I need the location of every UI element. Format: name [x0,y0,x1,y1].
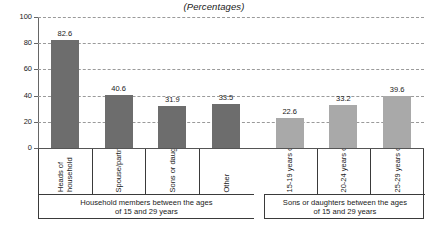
bar-value-label: 33.2 [321,95,365,103]
category-cell: Heads ofhousehold [39,149,93,194]
bar [158,106,186,148]
category-label: 25-29 years of age [394,149,403,192]
y-tick-label-60: 60 [0,65,32,73]
category-label: Sons or daughters [169,149,178,192]
bar-value-label: 82.6 [43,30,87,38]
bar [329,105,357,148]
bar [276,118,304,148]
category-label: Heads ofhousehold [57,150,74,192]
group-separator-gap [254,149,264,219]
category-cell: 25-29 years of age [371,149,425,194]
category-label: Spouse/partner [115,149,124,192]
bar-value-label: 22.6 [268,108,312,116]
y-tick-label-0: 0 [0,144,32,152]
bar-value-label: 33.5 [204,94,248,102]
bar [105,95,133,148]
bar [212,104,240,148]
gridline-60 [38,69,424,70]
y-tick-label-40: 40 [0,92,32,100]
gridline-80 [38,43,424,44]
bar-chart: (Percentages) 020406080100 82.640.631.93… [0,0,428,242]
category-cell: Spouse/partner [93,149,147,194]
bar-value-label: 40.6 [97,85,141,93]
bar-value-label: 31.9 [150,96,194,104]
gridline-100 [38,17,424,18]
category-table: Heads ofhouseholdSpouse/partnerSons or d… [38,149,424,219]
category-cell: 15-19 years of age [264,149,318,194]
category-label: 20-24 years of age [340,149,349,192]
category-label: Other [223,173,232,192]
chart-title: (Percentages) [0,1,428,12]
category-cell: 20-24 years of age [318,149,372,194]
y-tick-label-100: 100 [0,13,32,21]
y-tick-label-80: 80 [0,39,32,47]
group-caption: Sons or daughters between the agesof 15 … [264,194,425,219]
category-cell: Other [200,149,254,194]
group-caption: Household members between the agesof 15 … [39,194,254,219]
bar [51,40,79,148]
category-cell: Sons or daughters [146,149,200,194]
bar-value-label: 39.6 [375,86,419,94]
plot-area: 82.640.631.933.522.633.239.6 [38,17,424,148]
category-label: 15-19 years of age [286,149,295,192]
y-tick-label-20: 20 [0,118,32,126]
bar [383,96,411,148]
